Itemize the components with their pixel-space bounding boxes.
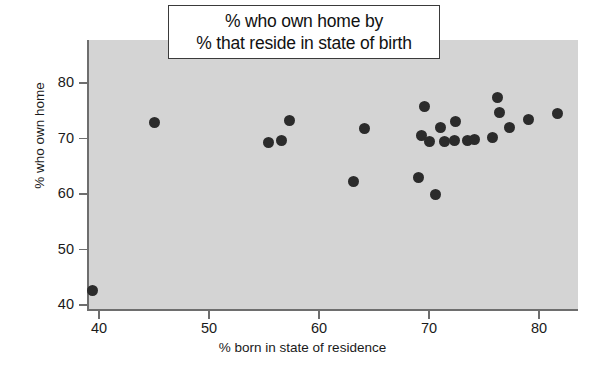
data-point bbox=[469, 134, 480, 145]
x-tick-label-60: 60 bbox=[299, 320, 339, 336]
y-tick-label-60: 60 bbox=[44, 185, 74, 201]
y-tick-80 bbox=[79, 82, 87, 84]
chart-title-line-2: % that reside in state of birth bbox=[196, 32, 412, 54]
y-axis-line bbox=[87, 40, 89, 311]
data-point bbox=[492, 92, 503, 103]
x-tick-70 bbox=[428, 311, 430, 319]
x-tick-50 bbox=[208, 311, 210, 319]
data-point bbox=[413, 172, 424, 183]
data-point bbox=[424, 136, 435, 147]
y-tick-70 bbox=[79, 138, 87, 140]
plot-panel bbox=[88, 40, 578, 310]
x-axis-label: % born in state of residence bbox=[0, 340, 605, 355]
data-point bbox=[284, 115, 295, 126]
x-tick-80 bbox=[538, 311, 540, 319]
x-axis-line bbox=[87, 309, 578, 311]
x-tick-60 bbox=[318, 311, 320, 319]
data-point bbox=[149, 117, 160, 128]
data-point bbox=[523, 114, 534, 125]
y-tick-50 bbox=[79, 249, 87, 251]
y-axis-label: % who own home bbox=[32, 51, 47, 221]
data-point bbox=[276, 135, 287, 146]
x-tick-label-50: 50 bbox=[189, 320, 229, 336]
y-tick-40 bbox=[79, 304, 87, 306]
chart-title-box: % who own home by % that reside in state… bbox=[168, 5, 440, 59]
x-tick-label-70: 70 bbox=[409, 320, 449, 336]
data-point bbox=[435, 122, 446, 133]
data-point bbox=[348, 176, 359, 187]
y-tick-label-80: 80 bbox=[44, 74, 74, 90]
y-tick-label-50: 50 bbox=[44, 241, 74, 257]
data-point bbox=[87, 285, 98, 296]
data-point bbox=[359, 123, 370, 134]
chart-title-line-1: % who own home by bbox=[225, 10, 383, 32]
x-tick-label-40: 40 bbox=[79, 320, 119, 336]
y-tick-label-40: 40 bbox=[44, 296, 74, 312]
scatter-plot-figure: 8070605040 4050607080 % who own home % b… bbox=[0, 0, 605, 390]
x-tick-40 bbox=[98, 311, 100, 319]
x-tick-label-80: 80 bbox=[519, 320, 559, 336]
data-point bbox=[449, 135, 460, 146]
y-tick-label-70: 70 bbox=[44, 130, 74, 146]
y-tick-60 bbox=[79, 193, 87, 195]
